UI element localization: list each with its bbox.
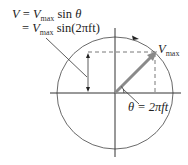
phasor-label-sub: max: [166, 49, 180, 58]
arrowhead-down-icon: [86, 87, 90, 92]
eq-equals: =: [23, 7, 30, 21]
phasor-label-var: V: [158, 42, 166, 56]
equation-leader-line: [46, 38, 87, 77]
angle-label: θ = 2πft: [128, 100, 168, 115]
phasor-arrow: [115, 55, 153, 93]
eq2-equals: =: [22, 21, 29, 35]
angle-label-text: θ = 2πft: [128, 100, 168, 114]
rotation-arrow-icon: [132, 36, 139, 41]
arrowhead-up-icon: [86, 53, 90, 58]
eq2-sin-expr: sin(2πft): [57, 21, 100, 35]
equation-line-2: = Vmax sin(2πft): [22, 21, 100, 37]
eq2-vmax-var: V: [32, 21, 40, 35]
eq-vmax-var: V: [33, 7, 41, 21]
phasor-label: Vmax: [158, 42, 179, 57]
eq-lhs-var: V: [12, 7, 20, 21]
eq-sin: sin: [58, 7, 73, 21]
eq2-vmax-sub: max: [40, 28, 54, 37]
eq-theta: θ: [75, 7, 81, 21]
